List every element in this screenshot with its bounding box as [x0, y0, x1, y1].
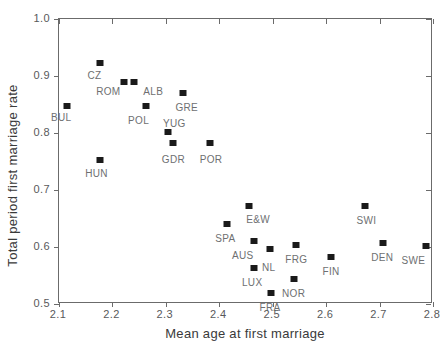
y-axis-title-text: Total period first marriage rate — [5, 84, 20, 266]
data-point-marker — [361, 203, 368, 209]
data-point-label: BUL — [51, 112, 71, 123]
data-point-label: SWE — [402, 255, 426, 266]
x-axis-tick-top — [166, 19, 167, 24]
data-point-label: SWI — [357, 215, 377, 226]
y-axis-tick-label: 0.8 — [34, 126, 51, 138]
data-point-marker — [267, 290, 274, 296]
y-axis-tick-label: 0.5 — [34, 297, 51, 309]
x-axis-tick — [166, 302, 167, 307]
data-point-label: NL — [262, 262, 275, 273]
data-point-label: DEN — [371, 252, 393, 263]
y-axis-tick-label: 0.9 — [34, 69, 51, 81]
data-point-marker — [251, 238, 258, 244]
scatter-chart-figure: Total period first marriage rate Mean ag… — [0, 0, 448, 351]
data-point-label: FIN — [322, 266, 339, 277]
data-point-label: ALB — [143, 86, 163, 97]
y-axis-tick — [54, 190, 59, 191]
data-point-label: YUG — [163, 118, 186, 129]
data-point-label: LUX — [242, 277, 262, 288]
data-point-marker — [422, 243, 429, 249]
data-point-marker — [143, 103, 150, 109]
y-axis-tick — [54, 304, 59, 305]
x-axis-tick-label: 2.4 — [210, 308, 227, 320]
y-axis-tick-label: 0.7 — [34, 183, 51, 195]
y-axis-tick-right — [426, 76, 431, 77]
y-axis-tick-right — [426, 190, 431, 191]
data-point-marker — [246, 203, 253, 209]
data-point-marker — [267, 246, 274, 252]
x-axis-tick-top — [326, 19, 327, 24]
x-axis-tick-label: 2.5 — [263, 308, 280, 320]
data-point-marker — [121, 79, 128, 85]
x-axis-tick — [326, 302, 327, 307]
x-axis-tick — [219, 302, 220, 307]
data-point-label: NOR — [282, 288, 305, 299]
data-point-marker — [164, 129, 171, 135]
data-point-marker — [169, 140, 176, 146]
x-axis-tick — [112, 302, 113, 307]
y-axis-title: Total period first marriage rate — [0, 0, 24, 351]
data-point-marker — [291, 276, 298, 282]
data-point-marker — [206, 140, 213, 146]
x-axis-tick-label: 2.3 — [157, 308, 174, 320]
x-axis-tick-top — [112, 19, 113, 24]
data-point-marker — [64, 103, 71, 109]
data-point-marker — [131, 79, 138, 85]
x-axis-tick — [433, 302, 434, 307]
x-axis-title: Mean age at first marriage — [58, 326, 432, 341]
data-point-marker — [293, 242, 300, 248]
x-axis-tick — [380, 302, 381, 307]
data-point-label: GRE — [175, 102, 198, 113]
data-point-marker — [380, 240, 387, 246]
y-axis-tick-right — [426, 304, 431, 305]
x-axis-tick-top — [380, 19, 381, 24]
data-point-marker — [180, 90, 187, 96]
y-axis-tick-right — [426, 19, 431, 20]
data-point-marker — [251, 265, 258, 271]
x-axis-tick-top — [219, 19, 220, 24]
x-axis-tick-label: 2.8 — [424, 308, 441, 320]
x-axis-tick — [59, 302, 60, 307]
y-axis-tick-right — [426, 133, 431, 134]
data-point-label: AUS — [232, 250, 253, 261]
data-point-marker — [328, 254, 335, 260]
y-axis-tick — [54, 76, 59, 77]
plot-area: BULCZHUNROMALBPOLYUGGDRGREPORSPAE&WAUSNL… — [58, 18, 432, 303]
data-point-label: HUN — [85, 168, 108, 179]
x-axis-tick-label: 2.2 — [103, 308, 120, 320]
data-point-label: SPA — [215, 233, 235, 244]
y-axis-tick — [54, 19, 59, 20]
data-point-marker — [96, 60, 103, 66]
data-point-label: FRG — [285, 254, 307, 265]
data-point-label: POR — [200, 154, 223, 165]
x-axis-tick-top — [273, 19, 274, 24]
x-axis-tick-top — [59, 19, 60, 24]
x-axis-tick-label: 2.6 — [317, 308, 334, 320]
data-point-label: GDR — [162, 154, 185, 165]
x-axis-tick-label: 2.1 — [50, 308, 67, 320]
y-axis-tick — [54, 133, 59, 134]
x-axis-tick-label: 2.7 — [370, 308, 387, 320]
y-axis-tick — [54, 247, 59, 248]
data-point-label: CZ — [88, 70, 102, 81]
y-axis-tick-label: 1.0 — [34, 12, 51, 24]
data-point-marker — [224, 221, 231, 227]
x-axis-tick-top — [433, 19, 434, 24]
data-point-label: E&W — [246, 214, 270, 225]
data-point-label: ROM — [96, 86, 120, 97]
data-point-label: POL — [128, 115, 149, 126]
data-point-marker — [97, 157, 104, 163]
y-axis-tick-label: 0.6 — [34, 240, 51, 252]
